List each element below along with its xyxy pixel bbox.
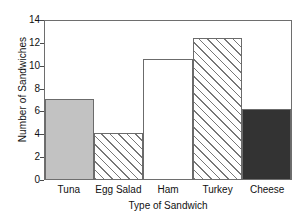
y-tick-label: 6	[18, 106, 40, 116]
x-tick-label: Ham	[143, 184, 193, 195]
y-tick-mark	[40, 180, 44, 181]
bar-series	[45, 21, 291, 179]
bar-chart: Number of Sandwiches 02468101214 TunaEgg…	[0, 0, 301, 216]
bar-tuna[interactable]	[45, 99, 94, 179]
bar-cheese[interactable]	[242, 109, 291, 179]
x-tick-label: Turkey	[193, 184, 243, 195]
x-axis-category-labels: TunaEgg SaladHamTurkeyCheese	[44, 184, 292, 195]
y-tick-label: 14	[18, 15, 40, 25]
x-tick-label: Egg Salad	[94, 184, 144, 195]
bar-egg-salad[interactable]	[94, 133, 143, 179]
bar-turkey[interactable]	[193, 38, 242, 179]
x-tick-label: Tuna	[44, 184, 94, 195]
y-tick-label: 10	[18, 61, 40, 71]
x-tick-label: Cheese	[242, 184, 292, 195]
x-axis-title: Type of Sandwich	[44, 200, 292, 211]
plot-area	[44, 20, 292, 180]
y-tick-label: 0	[18, 175, 40, 185]
y-axis-tick-labels: 02468101214	[14, 0, 40, 216]
y-tick-label: 8	[18, 84, 40, 94]
bar-ham[interactable]	[143, 59, 192, 179]
y-tick-label: 2	[18, 152, 40, 162]
y-tick-label: 12	[18, 38, 40, 48]
y-tick-label: 4	[18, 129, 40, 139]
